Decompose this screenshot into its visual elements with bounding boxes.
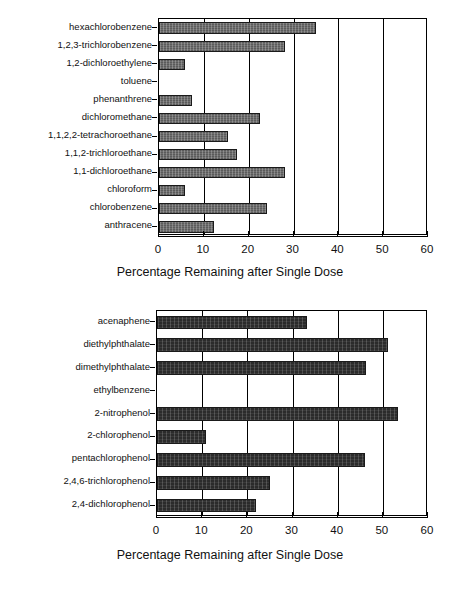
bar-row bbox=[159, 167, 426, 178]
category-label: acenaphene bbox=[0, 316, 150, 326]
y-tick-mark bbox=[150, 321, 155, 322]
bar bbox=[159, 113, 260, 124]
x-tick-label: 30 bbox=[286, 243, 299, 255]
x-tick-label: 0 bbox=[153, 524, 159, 536]
bar-row bbox=[159, 185, 426, 196]
bar-row bbox=[159, 22, 426, 33]
chart-top: hexachlorobenzene1,2,3-trichlorobenzene1… bbox=[0, 0, 460, 300]
y-tick-mark bbox=[152, 154, 157, 155]
x-tick-mark bbox=[427, 231, 428, 237]
bar-row bbox=[157, 430, 426, 444]
x-tick-label: 0 bbox=[155, 243, 161, 255]
category-label: phenanthrene bbox=[0, 94, 152, 104]
bar-row bbox=[159, 203, 426, 214]
bar-row bbox=[157, 407, 426, 421]
bar-row bbox=[159, 131, 426, 142]
y-tick-mark bbox=[152, 99, 157, 100]
y-tick-mark bbox=[150, 505, 155, 506]
category-label: 1,2,3-trichlorobenzene bbox=[0, 40, 152, 50]
y-tick-mark bbox=[150, 482, 155, 483]
y-tick-mark bbox=[150, 436, 155, 437]
x-tick-label: 30 bbox=[285, 524, 298, 536]
bar-row bbox=[159, 149, 426, 160]
bar bbox=[157, 407, 398, 421]
y-tick-mark bbox=[150, 413, 155, 414]
x-tick-mark bbox=[293, 231, 294, 237]
category-label: 1,2-dichloroethylene bbox=[0, 58, 152, 68]
y-tick-mark bbox=[152, 190, 157, 191]
x-tick-mark bbox=[337, 512, 338, 518]
bar-row bbox=[157, 338, 426, 352]
bar-row bbox=[159, 59, 426, 70]
category-label: 1,1,2,2-tetrachoroethane bbox=[0, 130, 152, 140]
x-tick-label: 60 bbox=[421, 243, 434, 255]
y-tick-mark bbox=[152, 226, 157, 227]
bar-row bbox=[157, 316, 426, 330]
bar bbox=[157, 476, 270, 490]
bar-row bbox=[157, 476, 426, 490]
x-tick-mark bbox=[246, 512, 247, 518]
x-tick-mark bbox=[292, 512, 293, 518]
y-tick-mark bbox=[150, 344, 155, 345]
plot-frame-bottom bbox=[156, 310, 427, 516]
plot-frame-top bbox=[158, 18, 427, 235]
y-tick-mark bbox=[152, 208, 157, 209]
bar-row bbox=[159, 41, 426, 52]
category-label: anthracene bbox=[0, 220, 152, 230]
x-tick-mark bbox=[158, 231, 159, 237]
bar-series-top bbox=[159, 19, 426, 234]
bar bbox=[159, 22, 316, 33]
y-tick-mark bbox=[152, 117, 157, 118]
bar bbox=[159, 59, 185, 70]
bar bbox=[157, 338, 388, 352]
category-label: chlorobenzene bbox=[0, 202, 152, 212]
category-label: hexachlorobenzene bbox=[0, 22, 152, 32]
bar bbox=[157, 499, 256, 513]
bar bbox=[159, 95, 192, 106]
y-tick-mark bbox=[152, 63, 157, 64]
bar-row bbox=[159, 113, 426, 124]
category-label: pentachlorophenol bbox=[0, 453, 150, 463]
x-tick-mark bbox=[201, 512, 202, 518]
category-label: toluene bbox=[0, 76, 152, 86]
y-tick-mark bbox=[152, 45, 157, 46]
category-label: 2,4,6-trichlorophenol bbox=[0, 476, 150, 486]
bar-series-bottom bbox=[157, 311, 426, 515]
y-tick-mark bbox=[150, 390, 155, 391]
x-tick-label: 20 bbox=[240, 524, 253, 536]
category-label: diethylphthalate bbox=[0, 339, 150, 349]
bar bbox=[159, 41, 285, 52]
y-tick-mark bbox=[150, 367, 155, 368]
x-tick-mark bbox=[203, 231, 204, 237]
x-tick-label: 50 bbox=[375, 524, 388, 536]
bar bbox=[159, 131, 228, 142]
bar bbox=[157, 453, 365, 467]
bar bbox=[159, 167, 285, 178]
bar-row bbox=[159, 95, 426, 106]
category-label: 1,1-dichloroethane bbox=[0, 166, 152, 176]
y-tick-mark bbox=[152, 27, 157, 28]
bar bbox=[157, 361, 366, 375]
category-label: 2-chlorophenol bbox=[0, 430, 150, 440]
axis-title-top: Percentage Remaining after Single Dose bbox=[0, 265, 460, 279]
category-label: 2-nitrophenol bbox=[0, 408, 150, 418]
category-label: dimethylphthalate bbox=[0, 362, 150, 372]
category-label: chloroform bbox=[0, 184, 152, 194]
x-tick-label: 20 bbox=[241, 243, 254, 255]
category-label: dichloromethane bbox=[0, 112, 152, 122]
bar bbox=[159, 149, 237, 160]
bar bbox=[159, 185, 185, 196]
x-tick-mark bbox=[382, 512, 383, 518]
x-tick-label: 10 bbox=[196, 243, 209, 255]
x-tick-label: 40 bbox=[331, 243, 344, 255]
bar-row bbox=[157, 453, 426, 467]
bar bbox=[157, 316, 307, 330]
chart-bottom: acenaphenediethylphthalatedimethylphthal… bbox=[0, 300, 460, 596]
y-tick-mark bbox=[152, 136, 157, 137]
x-tick-mark bbox=[156, 512, 157, 518]
x-tick-label: 40 bbox=[330, 524, 343, 536]
category-label: 1,1,2-trichloroethane bbox=[0, 148, 152, 158]
bar-row bbox=[157, 499, 426, 513]
y-tick-mark bbox=[152, 172, 157, 173]
y-tick-mark bbox=[150, 459, 155, 460]
